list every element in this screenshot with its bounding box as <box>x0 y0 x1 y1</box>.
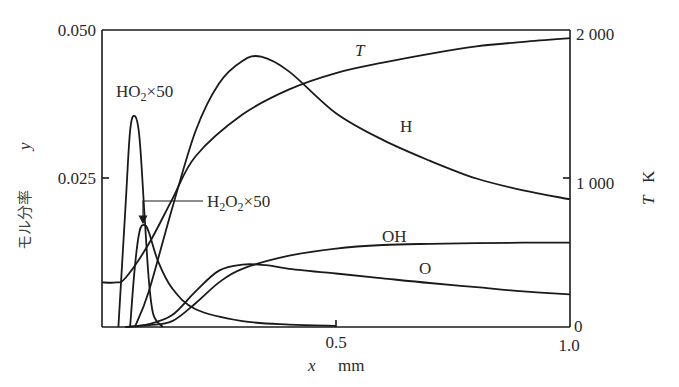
x-axis-variable: x <box>307 356 316 375</box>
y-left-axis-title: モル分率 y <box>15 142 34 250</box>
y-right-tick-0: 0 <box>574 317 583 336</box>
label-H2O2-h: H <box>207 192 219 211</box>
y-right-tick-2000: 2 000 <box>576 25 614 44</box>
label-H2O2x50: H2O2×50 <box>207 192 270 214</box>
label-HO2-main: HO <box>116 82 141 101</box>
label-HO2-multiplier: ×50 <box>147 82 174 101</box>
curve-h2o2-50 <box>130 225 336 327</box>
flame-profile-chart: 0.050 0.025 2 000 1 000 0 0.5 1.0 x mm モ… <box>0 0 679 387</box>
y-right-axis-unit: K <box>639 170 658 183</box>
y-right-axis-variable: T <box>639 194 658 205</box>
x-axis-unit: mm <box>338 356 364 375</box>
y-left-tick-0025: 0.025 <box>58 169 96 188</box>
y-right-axis-title: T K <box>639 170 658 205</box>
label-HO2x50: HO2×50 <box>116 82 173 104</box>
x-tick-10: 1.0 <box>558 336 579 355</box>
label-OH: OH <box>382 227 407 246</box>
x-tick-05: 0.5 <box>325 333 346 352</box>
y-left-tick-0050: 0.050 <box>58 21 96 40</box>
y-left-axis-label: モル分率 <box>16 190 34 250</box>
plot-frame <box>102 30 570 327</box>
label-O: O <box>419 259 431 278</box>
curve-oh <box>125 243 570 327</box>
curve-ho2-50 <box>118 116 162 327</box>
y-left-axis-variable: y <box>15 142 34 152</box>
curve-o <box>125 264 570 327</box>
label-H2O2-o: O <box>225 192 237 211</box>
curve-t <box>102 38 570 283</box>
label-H: H <box>400 117 412 136</box>
y-right-tick-1000: 1 000 <box>576 174 614 193</box>
label-H2O2-multiplier: ×50 <box>244 192 271 211</box>
label-T: T <box>355 41 366 60</box>
